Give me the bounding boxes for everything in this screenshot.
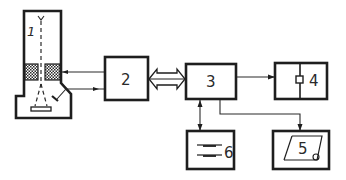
connection-2-to-coil [62, 70, 105, 74]
sample-stage-icon [31, 107, 51, 111]
coil-left-icon [25, 64, 38, 80]
block-4-label: 4 [309, 72, 319, 90]
block-1-label: 1 [27, 24, 35, 39]
block-6: 6 [187, 131, 234, 169]
block-6-label: 6 [224, 144, 234, 162]
coil-right-icon [45, 64, 60, 80]
block-5-label: 5 [298, 140, 308, 158]
connection-3-to-4 [237, 75, 275, 80]
bus-arrow-2-3 [149, 69, 185, 89]
block-diagram: 1 2 3 4 [0, 0, 346, 180]
block-3-label: 3 [206, 73, 216, 91]
block-4: 4 [275, 63, 327, 99]
connection-3-to-5 [220, 100, 303, 131]
electron-gun-icon [38, 16, 44, 20]
connection-detector-to-2 [57, 87, 105, 99]
block-2: 2 [105, 57, 148, 100]
block-5: 5 [273, 131, 329, 169]
block-2-label: 2 [121, 71, 131, 89]
block-3: 3 [186, 64, 236, 99]
connection-3-to-6 [198, 100, 203, 131]
block-1-column: 1 [16, 11, 71, 118]
switch-icon [296, 76, 303, 83]
storage-lines-icon [197, 145, 222, 156]
